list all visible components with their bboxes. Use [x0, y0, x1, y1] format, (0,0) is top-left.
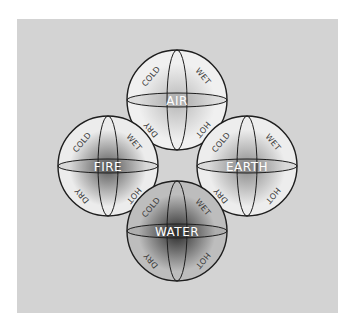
element-name-fire: FIRE	[94, 160, 122, 174]
element-name-water: WATER	[155, 225, 199, 239]
element-name-earth: EARTH	[226, 160, 268, 174]
element-name-air: AIR	[166, 94, 188, 108]
four-elements-diagram: COLDWETDRYHOTAIRCOLDWETDRYHOTFIRECOLDWET…	[0, 0, 353, 326]
sphere-water: COLDWETDRYHOTWATER	[127, 181, 227, 281]
